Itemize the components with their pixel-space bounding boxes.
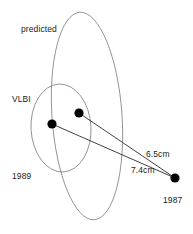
year-1987-label: 1987 <box>163 196 182 205</box>
predicted-center-dot <box>74 108 83 117</box>
vlbi-label: VLBI <box>12 95 31 104</box>
predicted-ellipse <box>45 10 129 222</box>
measurement-line-upper <box>79 113 175 178</box>
vlbi-center-dot <box>47 119 56 128</box>
distance-lower-label: 7.4cm <box>131 166 155 175</box>
predicted-label: predicted <box>21 25 57 34</box>
reference-1987-dot <box>170 173 179 182</box>
astrometry-position-diagram: predicted VLBI 1989 1987 6.5cm 7.4cm <box>0 0 193 234</box>
distance-upper-label: 6.5cm <box>146 150 170 159</box>
year-1989-label: 1989 <box>12 172 31 181</box>
